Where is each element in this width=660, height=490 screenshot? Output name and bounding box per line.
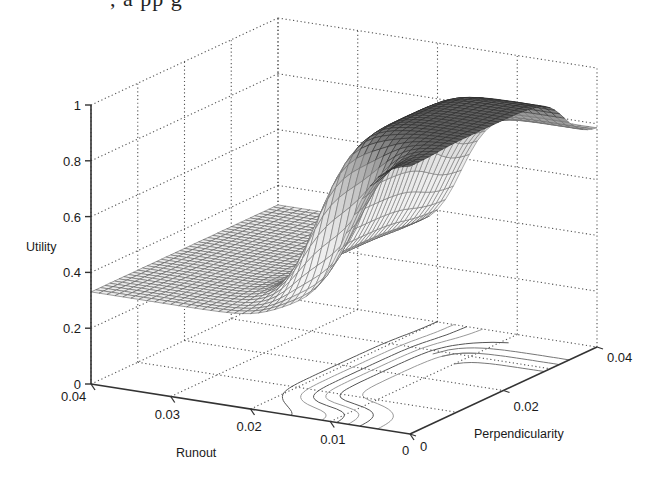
x-axis-label-runout: Runout (176, 446, 217, 460)
z-tick-label: 0.2 (63, 321, 81, 336)
y-tick-label: 0.02 (514, 399, 539, 414)
z-tick-label: 0.4 (63, 265, 81, 280)
y-tick-label: 0 (420, 439, 427, 454)
surface-plot: 00.20.40.60.810.040.030.020.01000.020.04… (0, 0, 660, 490)
x-tick-label: 0.02 (237, 419, 262, 434)
x-tick-label: 0.04 (61, 389, 86, 404)
y-tick-label: 0.04 (607, 350, 632, 365)
z-tick-label: 1 (74, 98, 81, 113)
y-axis-label-perpendicularity: Perpendicularity (474, 427, 564, 441)
x-tick-label: 0.03 (155, 407, 180, 422)
z-tick-label: 0.6 (63, 210, 81, 225)
z-axis-label: Utility (26, 240, 57, 254)
utility-surface-mesh (91, 97, 597, 313)
x-tick-label: 0 (402, 443, 409, 458)
x-tick-label: 0.01 (320, 432, 345, 447)
z-tick-label: 0.8 (63, 154, 81, 169)
